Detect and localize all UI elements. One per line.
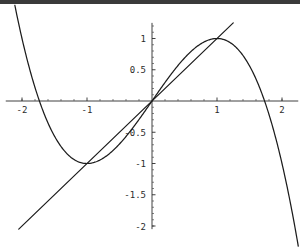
y-tick-label: -1.5 xyxy=(124,190,146,200)
x-tick-label: 2 xyxy=(279,105,284,115)
y-tick-label: -2 xyxy=(135,222,146,232)
plot-figure: -2-112 10.5-0.5-1-1.5-2 xyxy=(0,0,300,247)
y-tick-label: 1 xyxy=(141,34,146,44)
y-tick-label: -0.5 xyxy=(124,128,146,138)
x-tick-label: 1 xyxy=(214,105,219,115)
curve-cubic xyxy=(15,5,298,246)
x-tick-label: -1 xyxy=(82,105,93,115)
y-tick-label: 0.5 xyxy=(130,65,146,75)
y-tick-label: -1 xyxy=(135,159,146,169)
y-axis-major-ticks xyxy=(152,39,156,227)
x-tick-label: -2 xyxy=(17,105,28,115)
plot-canvas: -2-112 10.5-0.5-1-1.5-2 xyxy=(0,0,300,247)
y-axis-tick-labels: 10.5-0.5-1-1.5-2 xyxy=(124,34,146,232)
x-axis-tick-labels: -2-112 xyxy=(17,105,285,115)
